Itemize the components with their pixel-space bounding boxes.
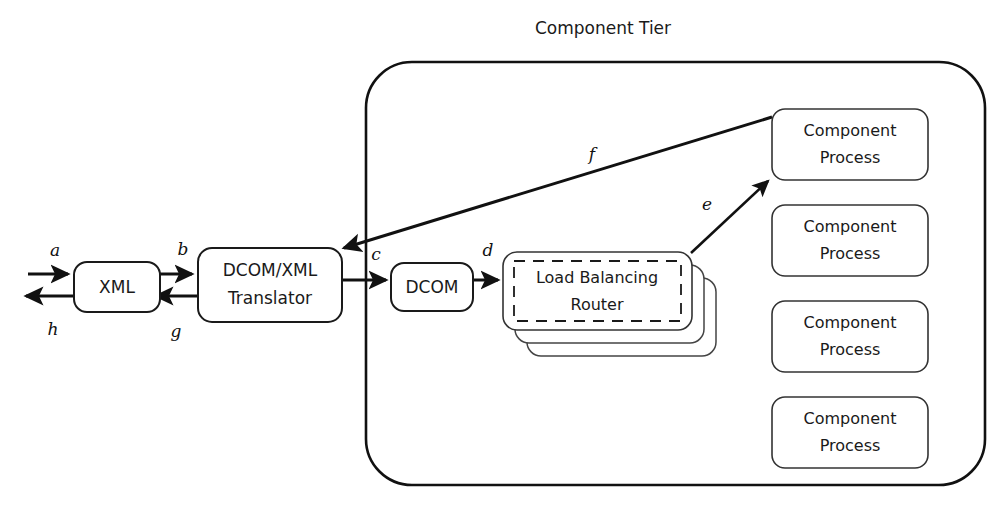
router-label-line1: Load Balancing <box>536 268 658 287</box>
node-component-process-4[interactable]: Component Process <box>772 397 928 468</box>
router-box <box>503 252 692 330</box>
process3-label-line1: Component <box>804 313 897 332</box>
dcom-label: DCOM <box>405 277 458 297</box>
node-component-process-3[interactable]: Component Process <box>772 301 928 372</box>
node-component-process-1[interactable]: Component Process <box>772 109 928 180</box>
translator-label-line2: Translator <box>227 288 312 308</box>
process2-label-line2: Process <box>820 244 881 263</box>
edge-label-e: e <box>702 194 712 214</box>
connection-f <box>344 117 772 248</box>
edge-label-f: f <box>587 144 598 164</box>
node-dcom[interactable]: DCOM <box>391 263 473 311</box>
edge-label-d: d <box>483 240 494 260</box>
node-component-process-2[interactable]: Component Process <box>772 205 928 276</box>
process4-label-line2: Process <box>820 436 881 455</box>
router-label-line2: Router <box>570 295 623 314</box>
component-tier-title: Component Tier <box>535 18 671 38</box>
edge-label-c: c <box>371 244 381 264</box>
edge-label-a: a <box>50 240 60 260</box>
process4-label-line1: Component <box>804 409 897 428</box>
process2-label-line1: Component <box>804 217 897 236</box>
node-dcom-xml-translator[interactable]: DCOM/XML Translator <box>198 248 342 322</box>
edge-label-g: g <box>171 321 182 341</box>
xml-label: XML <box>99 277 135 297</box>
translator-label-line1: DCOM/XML <box>223 260 318 280</box>
architecture-diagram: Component Tier XML DCOM/XML Translator <box>0 0 997 505</box>
node-load-balancing-router[interactable]: Load Balancing Router <box>503 252 692 330</box>
process1-label-line2: Process <box>820 148 881 167</box>
diagram-canvas: Component Tier XML DCOM/XML Translator <box>0 0 997 505</box>
edge-label-b: b <box>178 239 189 259</box>
connection-e <box>691 181 768 253</box>
process3-label-line2: Process <box>820 340 881 359</box>
node-xml[interactable]: XML <box>74 262 160 312</box>
process1-label-line1: Component <box>804 121 897 140</box>
edge-label-h: h <box>48 319 59 339</box>
